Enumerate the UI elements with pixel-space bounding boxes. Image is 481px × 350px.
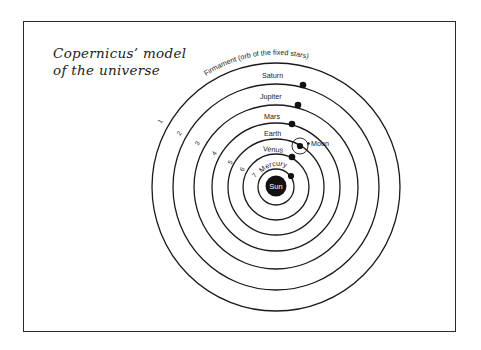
- planet-jupiter: [295, 102, 302, 109]
- orbit-number-3: 3: [193, 139, 201, 146]
- planet-mercury: [288, 173, 294, 179]
- planet-label-mars: Mars: [264, 112, 280, 121]
- orbit-numbers: 1 2 3 4 5 6 7: [156, 117, 258, 178]
- moon: [307, 142, 309, 144]
- planet-label-mercury: Mercury: [257, 159, 288, 175]
- planet-saturn: [300, 82, 307, 89]
- moon-label: Moon: [311, 139, 329, 148]
- sun-label: Sun: [269, 182, 282, 191]
- planet-label-venus: Venus: [263, 144, 284, 155]
- orbit-number-4: 4: [210, 149, 218, 156]
- planet-venus: [289, 154, 296, 161]
- firmament-label: Firmament (orb of the fixed stars): [202, 48, 310, 78]
- orbit-number-1: 1: [156, 117, 164, 124]
- planet-label-earth: Earth: [264, 129, 281, 138]
- orbit-number-6: 6: [238, 165, 246, 172]
- orbit-number-7: 7: [250, 171, 258, 179]
- copernican-diagram: Firmament (orb of the fixed stars) 1 2 3…: [0, 0, 481, 350]
- orbit-number-2: 2: [175, 129, 183, 136]
- planet-label-saturn: Saturn: [262, 71, 283, 80]
- planet-earth: [297, 143, 303, 149]
- planet-label-jupiter: Jupiter: [260, 92, 282, 101]
- planet-mars: [289, 121, 296, 128]
